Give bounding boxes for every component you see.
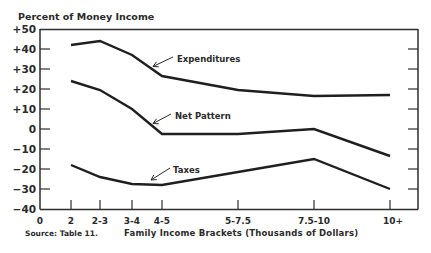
y-tick-label: +10 bbox=[13, 103, 36, 115]
series-label-expenditures: Expenditures bbox=[153, 54, 240, 67]
source-note: Source: Table 11. bbox=[25, 229, 98, 238]
x-tick-label-zero: 0 bbox=[37, 216, 43, 226]
x-axis-ticks: 22-33-44-55-7.57.5-1010+ bbox=[68, 200, 403, 226]
x-tick-label: 2 bbox=[68, 216, 74, 226]
label-net-pattern: Net Pattern bbox=[175, 111, 231, 121]
series-line-taxes bbox=[71, 159, 390, 189]
y-tick-label: −30 bbox=[13, 183, 36, 195]
arrowhead-icon bbox=[151, 175, 157, 180]
y-tick-label: −10 bbox=[13, 143, 36, 155]
series-label-taxes: Taxes bbox=[151, 165, 200, 180]
y-tick-label: +20 bbox=[13, 83, 36, 95]
y-tick-label: +30 bbox=[13, 63, 36, 75]
x-tick-label: 2-3 bbox=[92, 216, 108, 226]
x-tick-label: 4-5 bbox=[154, 216, 170, 226]
y-tick-label: 0 bbox=[29, 123, 36, 135]
arrow-icon bbox=[151, 168, 170, 180]
x-tick-label: 5-7.5 bbox=[225, 216, 251, 226]
line-chart: Percent of Money Income +50+40+30+20+100… bbox=[0, 0, 431, 253]
y-axis-title: Percent of Money Income bbox=[18, 11, 154, 22]
series-label-net-pattern: Net Pattern bbox=[153, 111, 231, 124]
x-tick-label: 10+ bbox=[383, 216, 403, 226]
series-line-expenditures bbox=[71, 41, 390, 96]
arrow-icon bbox=[153, 114, 171, 124]
y-tick-label: −20 bbox=[13, 163, 36, 175]
y-tick-label: +50 bbox=[13, 23, 36, 35]
label-taxes: Taxes bbox=[173, 165, 200, 175]
x-tick-label: 7.5-10 bbox=[298, 216, 330, 226]
y-tick-label: +40 bbox=[13, 43, 36, 55]
x-tick-label: 3-4 bbox=[124, 216, 140, 226]
x-axis-title: Family Income Brackets (Thousands of Dol… bbox=[124, 228, 358, 238]
label-expenditures: Expenditures bbox=[177, 54, 240, 64]
y-tick-label: −40 bbox=[13, 203, 36, 215]
